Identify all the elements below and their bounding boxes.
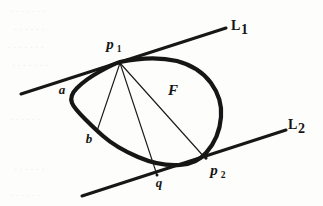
label-line-L2-subscript: 2	[298, 121, 305, 136]
label-line-L1-subscript: 1	[241, 22, 248, 37]
svg-text:. . . . .: . . . . . . .	[10, 2, 46, 14]
label-point-a: a	[59, 82, 66, 97]
svg-text:. . . . . .: . . . . . .	[10, 186, 41, 198]
label-point-q: q	[156, 175, 163, 190]
figure-canvas: . . . . . . . . . . . . . . . . . . . . …	[0, 0, 323, 206]
label-point-p2-subscript: 2	[221, 170, 226, 180]
svg-text:. . . . .: . . . . . .	[10, 110, 41, 122]
tangency-point-p2	[204, 156, 207, 159]
label-point-p2-text: p	[208, 162, 218, 178]
tangency-point-p1	[118, 60, 121, 63]
svg-text:. . . . .: . . . . . .	[14, 160, 45, 172]
geometric-diagram: . . . . . . . . . . . . . . . . . . . . …	[0, 0, 323, 206]
label-point-b: b	[86, 131, 93, 146]
label-region-F: F	[167, 82, 178, 98]
svg-text:. . . . . .: . . . . . . .	[8, 38, 44, 50]
label-line-L2-text: L	[288, 117, 297, 132]
label-point-p1-text: p	[104, 36, 114, 52]
svg-text:. . . . .: . . . . . . .	[12, 56, 48, 68]
svg-text:. . . . .: . . . . . .	[14, 20, 45, 32]
label-line-L1-text: L	[231, 18, 240, 33]
label-point-p1-subscript: 1	[117, 44, 122, 54]
